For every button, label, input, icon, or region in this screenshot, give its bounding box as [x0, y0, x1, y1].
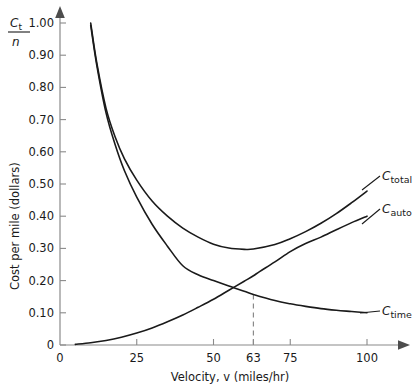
curve-label-c-time: Ctime [382, 304, 412, 320]
curve-c-time [91, 25, 367, 313]
curve-c-total [91, 23, 367, 250]
curve-c-auto [75, 216, 367, 344]
y-axis-title: Cost per mile (dollars) [8, 162, 22, 290]
x-tick-group: 025506375100 [56, 339, 378, 365]
leader-line-c-total [362, 176, 380, 190]
curve-label-c-total: Ctotal [382, 169, 412, 185]
y-axis-symbol: Ct n [8, 16, 30, 49]
y-axis-symbol-numerator: Ct [10, 16, 22, 32]
y-tick-label: 0.60 [28, 145, 54, 159]
x-tick-label: 100 [356, 351, 378, 365]
figure-container: 00.100.200.300.400.500.600.700.800.901.0… [0, 0, 418, 389]
x-tick-label: 25 [129, 351, 144, 365]
curve-label-c-auto: Cauto [382, 202, 412, 218]
y-tick-label: 0.40 [28, 209, 54, 223]
leader-line-group [360, 176, 380, 313]
y-tick-label: 1.00 [28, 16, 54, 30]
cost-per-mile-chart: 00.100.200.300.400.500.600.700.800.901.0… [0, 0, 418, 389]
x-axis-arrow-icon [398, 340, 410, 350]
curve-label-group: Ctotal Cauto Ctime [382, 169, 412, 320]
curve-group [75, 23, 367, 344]
y-axis [55, 6, 65, 345]
y-tick-label: 0.50 [28, 177, 54, 191]
y-tick-label: 0.90 [28, 48, 54, 62]
y-tick-label: 0.20 [28, 274, 54, 288]
x-tick-label: 63 [246, 351, 261, 365]
y-tick-label: 0 [47, 338, 54, 352]
x-tick-label: 50 [206, 351, 221, 365]
y-tick-label: 0.80 [28, 80, 54, 94]
y-axis-symbol-denominator: n [12, 35, 20, 49]
y-axis-arrow-icon [55, 6, 65, 18]
y-tick-label: 0.30 [28, 241, 54, 255]
y-tick-label: 0.70 [28, 113, 54, 127]
x-tick-label: 75 [283, 351, 298, 365]
x-axis [60, 340, 410, 350]
y-tick-label: 0.10 [28, 306, 54, 320]
x-axis-title: Velocity, v (miles/hr) [171, 370, 289, 384]
x-tick-label: 0 [56, 351, 63, 365]
